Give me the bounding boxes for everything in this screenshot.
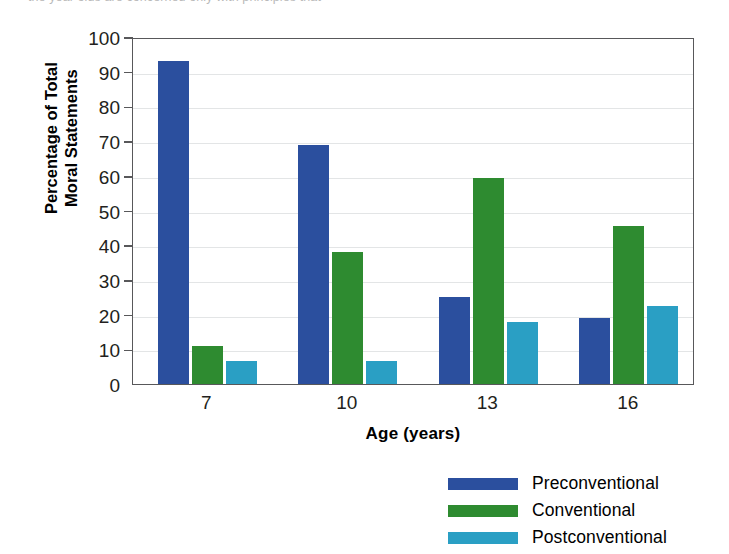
legend-item-postconventional: Postconventional bbox=[448, 524, 667, 551]
y-axis-tick-label: 20 bbox=[76, 306, 120, 325]
chart-legend: PreconventionalConventionalPostconventio… bbox=[448, 470, 667, 551]
y-axis-tick-label: 40 bbox=[76, 237, 120, 256]
x-axis-title: Age (years) bbox=[132, 424, 694, 444]
gridline bbox=[133, 247, 693, 248]
x-axis-tick-label: 10 bbox=[317, 392, 377, 414]
gridline bbox=[133, 213, 693, 214]
y-axis-tick-label: 30 bbox=[76, 271, 120, 290]
legend-swatch-postconventional bbox=[448, 532, 518, 544]
x-axis-tick-label: 7 bbox=[176, 392, 236, 414]
gridline bbox=[133, 282, 693, 283]
bar-chart: Percentage of Total Moral Statements 010… bbox=[0, 0, 729, 554]
legend-label: Postconventional bbox=[532, 527, 667, 548]
gridline bbox=[133, 143, 693, 144]
legend-swatch-preconventional bbox=[448, 478, 518, 490]
gridline bbox=[133, 178, 693, 179]
y-axis-tick-label: 50 bbox=[76, 202, 120, 221]
legend-item-preconventional: Preconventional bbox=[448, 470, 667, 497]
bar-postconventional-age-16 bbox=[647, 306, 678, 384]
bar-preconventional-age-7 bbox=[158, 61, 189, 384]
y-axis-tick-label: 0 bbox=[76, 376, 120, 395]
x-axis-tick-label: 13 bbox=[457, 392, 517, 414]
legend-swatch-conventional bbox=[448, 505, 518, 517]
plot-area bbox=[132, 38, 694, 385]
gridline bbox=[133, 74, 693, 75]
bar-preconventional-age-16 bbox=[579, 318, 610, 384]
bar-postconventional-age-13 bbox=[507, 322, 538, 384]
bar-postconventional-age-7 bbox=[226, 361, 257, 384]
bar-conventional-age-10 bbox=[332, 252, 363, 384]
bar-conventional-age-7 bbox=[192, 346, 223, 384]
legend-label: Conventional bbox=[532, 500, 635, 521]
y-axis-tick-label: 80 bbox=[76, 98, 120, 117]
bar-postconventional-age-10 bbox=[366, 361, 397, 384]
bar-conventional-age-16 bbox=[613, 226, 644, 384]
legend-item-conventional: Conventional bbox=[448, 497, 667, 524]
y-axis-title-line-1: Percentage of Total bbox=[41, 13, 61, 263]
y-axis-tick-label: 60 bbox=[76, 167, 120, 186]
y-axis-tick-label: 100 bbox=[76, 29, 120, 48]
legend-label: Preconventional bbox=[532, 473, 659, 494]
y-axis-labels: 0102030405060708090100 bbox=[66, 0, 120, 554]
x-axis-tick-label: 16 bbox=[598, 392, 658, 414]
bar-preconventional-age-13 bbox=[439, 297, 470, 384]
gridline bbox=[133, 108, 693, 109]
y-axis-tick-label: 10 bbox=[76, 341, 120, 360]
y-axis-tick-label: 90 bbox=[76, 63, 120, 82]
y-axis-tick-label: 70 bbox=[76, 133, 120, 152]
bar-conventional-age-13 bbox=[473, 178, 504, 384]
bar-preconventional-age-10 bbox=[298, 145, 329, 384]
